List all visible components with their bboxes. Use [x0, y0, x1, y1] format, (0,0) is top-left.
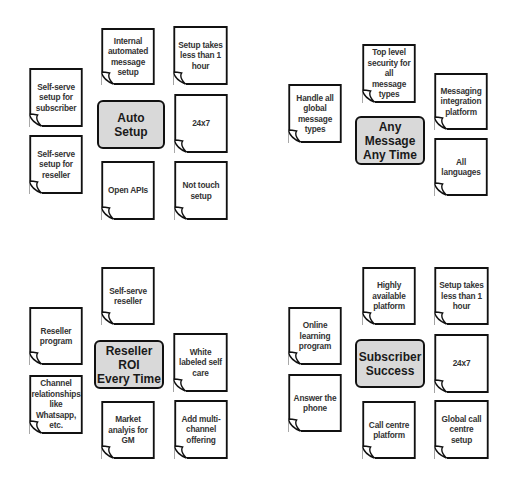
sticky-note: Top level security for all message types — [362, 44, 415, 103]
sticky-note: Highly available platform — [362, 267, 415, 325]
note-text: Global call centre setup — [439, 414, 484, 446]
note-text: Highly available platform — [367, 280, 411, 312]
sticky-note: Online learning program — [288, 307, 341, 365]
page-curl-icon — [29, 180, 42, 194]
sticky-note: Self-serve reseller — [101, 267, 154, 325]
sticky-note: 24x7 — [434, 334, 488, 393]
note-text: 24x7 — [453, 358, 471, 369]
page-curl-icon — [174, 139, 187, 153]
page-curl-icon — [173, 378, 186, 392]
sticky-note: Channel relationships like Whatsapp, etc… — [29, 375, 82, 434]
sticky-note: Setup takes less than 1 hour — [173, 26, 227, 85]
page-curl-icon — [362, 89, 375, 103]
note-text: Messaging integration platform — [439, 86, 483, 118]
page-curl-icon — [101, 311, 114, 325]
page-curl-icon — [434, 379, 447, 393]
sticky-note: Internal automated message setup — [101, 28, 154, 85]
page-curl-icon — [173, 71, 186, 85]
diagram-canvas: Auto Setup Internal automated message se… — [0, 0, 515, 489]
sticky-note: Self-serve setup for subscriber — [29, 68, 82, 127]
sticky-note: 24x7 — [174, 94, 227, 153]
page-curl-icon — [288, 418, 301, 432]
page-curl-icon — [101, 445, 114, 459]
sticky-note: Self-serve setup for reseller — [29, 135, 82, 194]
sticky-note: Not touch setup — [174, 161, 227, 220]
page-curl-icon — [288, 351, 301, 365]
sticky-note: Handle all global message types — [288, 84, 341, 143]
note-text: Setup takes less than 1 hour — [439, 280, 484, 312]
hub-any-message-any-time: Any Message Any Time — [355, 116, 425, 165]
sticky-note: White labeled self care — [173, 333, 227, 392]
page-curl-icon — [101, 206, 114, 220]
sticky-note: All languages — [434, 138, 487, 196]
page-curl-icon — [434, 116, 447, 130]
note-text: Answer the phone — [293, 393, 337, 414]
sticky-note: Answer the phone — [288, 374, 341, 432]
note-text: Add multi-channel offering — [179, 414, 223, 446]
note-text: All languages — [439, 157, 483, 178]
page-curl-icon — [362, 311, 375, 325]
page-curl-icon — [29, 351, 42, 365]
note-text: Self-serve setup for reseller — [34, 149, 78, 181]
note-text: 24x7 — [192, 118, 210, 129]
note-text: White labeled self care — [178, 347, 223, 379]
hub-reseller-roi: Reseller ROI Every Time — [94, 340, 164, 389]
page-curl-icon — [29, 113, 42, 127]
note-text: Call centre platform — [367, 420, 411, 441]
page-curl-icon — [288, 129, 301, 143]
page-curl-icon — [434, 182, 447, 196]
note-text: Online learning program — [293, 320, 337, 352]
page-curl-icon — [174, 206, 187, 220]
note-text: Reseller program — [34, 326, 78, 347]
page-curl-icon — [29, 420, 42, 434]
page-curl-icon — [174, 445, 187, 459]
note-text: Setup takes less than 1 hour — [178, 40, 223, 72]
sticky-note: Reseller program — [29, 307, 82, 365]
sticky-note: Setup takes less than 1 hour — [434, 267, 488, 325]
note-text: Market analyis for GM — [106, 414, 150, 446]
sticky-note: Call centre platform — [362, 401, 415, 459]
note-text: Self-serve reseller — [106, 286, 150, 307]
hub-subscriber-success: Subscriber Success — [355, 339, 425, 388]
sticky-note: Open APIs — [101, 161, 154, 220]
sticky-note: Messaging integration platform — [434, 73, 487, 130]
sticky-note: Market analyis for GM — [101, 401, 154, 459]
page-curl-icon — [362, 445, 375, 459]
note-text: Open APIs — [108, 185, 148, 196]
note-text: Self-serve setup for subscriber — [34, 82, 78, 114]
sticky-note: Global call centre setup — [434, 400, 488, 459]
hub-auto-setup: Auto Setup — [97, 100, 165, 149]
page-curl-icon — [101, 71, 114, 85]
note-text: Not touch setup — [179, 180, 223, 201]
sticky-note: Add multi-channel offering — [174, 400, 227, 459]
page-curl-icon — [434, 311, 447, 325]
page-curl-icon — [434, 445, 447, 459]
